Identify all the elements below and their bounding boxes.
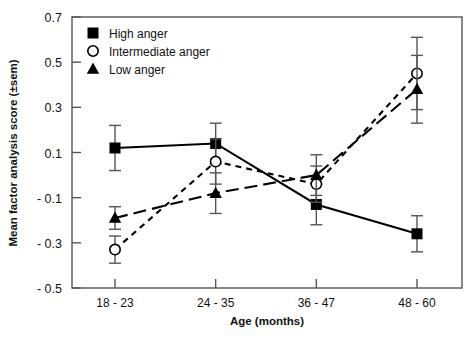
legend-label: High anger (109, 27, 168, 41)
legend-marker-filled-triangle-icon (87, 63, 99, 74)
x-tick-label: 36 - 47 (298, 296, 336, 310)
series-line (115, 143, 417, 233)
y-tick-label: 0.1 (45, 147, 62, 161)
legend-item: Low anger (87, 63, 165, 77)
series-low-anger (109, 55, 423, 229)
series-high-anger (109, 123, 423, 252)
y-tick-label: 0.3 (45, 101, 62, 115)
x-axis-title: Age (months) (230, 315, 304, 327)
y-tick-label: - 0.3 (37, 237, 62, 251)
x-tick-label: 48 - 60 (398, 296, 436, 310)
data-point-marker (110, 244, 120, 254)
legend-label: Low anger (109, 63, 165, 77)
legend-item: Intermediate anger (88, 45, 210, 59)
series-line (115, 89, 417, 218)
legend-item: High anger (88, 27, 168, 41)
series-line (115, 73, 417, 249)
data-point-marker (412, 228, 423, 239)
x-axis-ticks: 18 - 2324 - 3536 - 4748 - 60 (96, 279, 436, 310)
x-tick-label: 18 - 23 (96, 296, 134, 310)
y-tick-label: 0.5 (45, 56, 62, 70)
y-axis-ticks: 0.70.50.30.1- 0.1- 0.3- 0.5 (37, 11, 81, 296)
x-tick-label: 24 - 35 (197, 296, 235, 310)
y-tick-label: - 0.5 (37, 282, 62, 296)
data-point-marker (411, 83, 423, 94)
data-point-marker (210, 156, 220, 166)
legend-label: Intermediate anger (109, 45, 210, 59)
factor-analysis-line-chart: Mean factor analysis score (±sem) 0.70.5… (0, 0, 475, 339)
y-tick-label: 0.7 (45, 11, 62, 25)
y-axis-title: Mean factor analysis score (±sem) (7, 59, 19, 246)
legend-marker-open-circle-icon (88, 46, 98, 56)
y-tick-label: - 0.1 (37, 192, 62, 206)
legend-marker-filled-square-icon (88, 28, 99, 39)
data-point-marker (209, 187, 221, 198)
chart-figure: Mean factor analysis score (±sem) 0.70.5… (0, 0, 475, 339)
data-point-marker (110, 142, 121, 153)
chart-legend: High angerIntermediate angerLow anger (87, 27, 210, 77)
